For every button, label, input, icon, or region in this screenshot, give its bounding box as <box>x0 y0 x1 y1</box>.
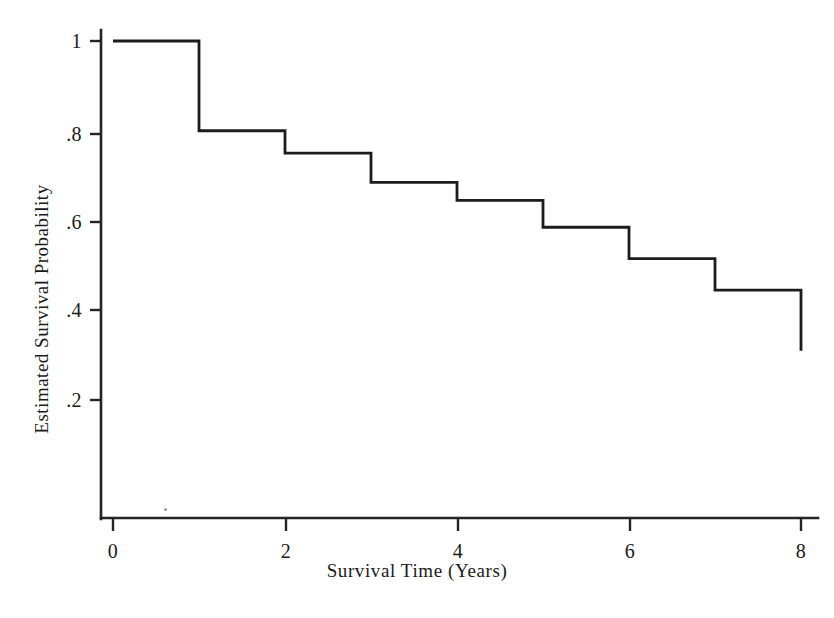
x-axis-title: Survival Time (Years) <box>0 560 834 582</box>
survival-curve-figure: 1 .8 .6 .4 .2 0 2 4 6 8 Survival Time (Y… <box>0 0 834 618</box>
y-axis-title: Estimated Survival Probability <box>22 0 62 618</box>
scan-artifact-speck <box>164 508 167 511</box>
kaplan-meier-step-curve <box>113 41 801 351</box>
survival-plot-canvas <box>0 0 834 618</box>
